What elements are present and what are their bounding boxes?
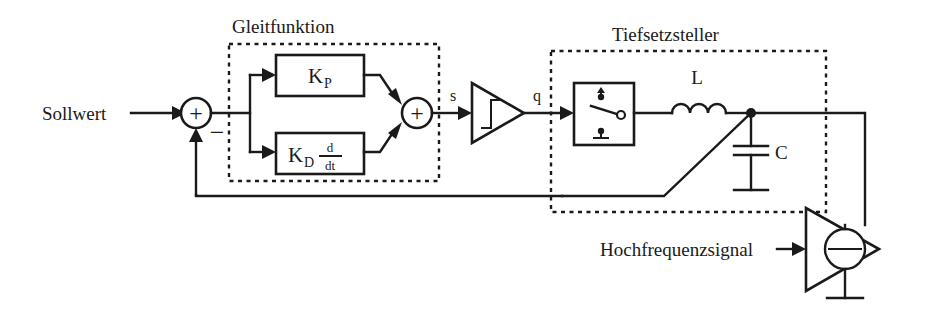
summing-input-plus-sign: + xyxy=(189,100,203,126)
switch-pivot xyxy=(617,111,625,119)
block-kd-denominator: dt xyxy=(325,158,336,173)
block-kp-label: K xyxy=(308,64,323,88)
wire-feedback-return xyxy=(196,195,562,196)
inductor-label: L xyxy=(691,67,703,88)
wire-kp-to-sum xyxy=(364,75,394,96)
block-kd-subscript: D xyxy=(304,155,314,170)
signal-label-s: s xyxy=(450,87,456,104)
inductor-coil xyxy=(672,104,726,113)
schematic-svg: Gleitfunktion Tiefsetzsteller Sollwert +… xyxy=(0,0,942,313)
arrowhead-feedback-into-sum xyxy=(189,128,203,142)
hysteresis-comparator-block xyxy=(472,83,524,143)
group-label-gleitfunktion: Gleitfunktion xyxy=(232,16,335,37)
summing-branch-plus-sign: + xyxy=(410,100,424,126)
group-label-tiefsetzsteller: Tiefsetzsteller xyxy=(612,24,720,45)
block-diagram-canvas: Gleitfunktion Tiefsetzsteller Sollwert +… xyxy=(0,0,942,313)
wire-kd-to-sum xyxy=(364,131,394,152)
capacitor-label: C xyxy=(775,142,788,163)
input-label-hochfrequenzsignal: Hochfrequenzsignal xyxy=(600,239,753,260)
switch-upper-contact xyxy=(598,94,604,100)
block-kd-numerator: d xyxy=(327,140,334,155)
signal-label-q: q xyxy=(533,87,541,105)
arrowhead-kp-input xyxy=(262,68,276,82)
block-kd-label: K xyxy=(288,143,303,167)
arrowhead-switch-input xyxy=(560,106,574,120)
block-kp-subscript: P xyxy=(324,76,332,91)
arrowhead-hysteresis-input xyxy=(458,106,472,120)
summing-input-minus-sign: − xyxy=(210,118,225,147)
arrowhead-kd-input xyxy=(262,145,276,159)
arrowhead-hf-input xyxy=(792,242,806,256)
input-label-sollwert: Sollwert xyxy=(42,103,107,124)
